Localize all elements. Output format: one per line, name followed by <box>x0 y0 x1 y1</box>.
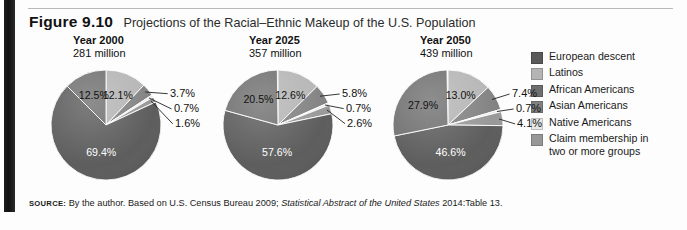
legend-item-native-americans: Native Americans <box>531 116 683 130</box>
figure-container: Figure 9.10 Projections of the Racial–Et… <box>0 0 687 230</box>
pie-slice-label: 57.6% <box>262 146 293 158</box>
panel-header-2050: Year 2050 439 million <box>420 34 473 59</box>
pie-slice-label: 12.6% <box>275 89 306 101</box>
figure-title-row: Figure 9.10 Projections of the Racial–Et… <box>29 13 476 31</box>
legend-item-label-multiline: Claim membership intwo or more groups <box>549 132 649 158</box>
source-note: SOURCE: By the author. Based on U.S. Cen… <box>29 198 503 208</box>
legend-item-label: European descent <box>549 50 635 63</box>
pie-chart-2000: 69.4%12.1%12.5% <box>50 69 162 181</box>
legend-item-asian-americans: Asian Americans <box>531 99 683 113</box>
legend-item-label-line2: two or more groups <box>549 145 640 157</box>
pie-slice-label: 20.5% <box>243 93 274 105</box>
panel-population-label: 357 million <box>249 47 302 60</box>
source-text-2: 2014:Table 13. <box>442 198 502 208</box>
legend-item-label: Native Americans <box>549 116 631 129</box>
figure-number: Figure 9.10 <box>29 13 113 30</box>
pie-callout-leader-line <box>494 106 519 115</box>
title-divider-rule <box>28 8 673 9</box>
panel-year-label: Year 2000 <box>73 34 126 47</box>
pie-svg: 57.6%12.6%20.5% <box>222 69 334 181</box>
legend-swatch-icon <box>531 68 543 80</box>
panel-population-label: 281 million <box>73 47 126 60</box>
pie-shading-overlay <box>51 70 161 180</box>
pie-callout-label: 7.4% <box>512 87 537 99</box>
panel-header-2025: Year 2025 357 million <box>249 34 302 59</box>
legend-item-two-or-more-groups: Claim membership intwo or more groups <box>531 132 683 158</box>
legend-item-label-line1: Claim membership in <box>549 132 649 144</box>
pie-callout-label: 0.7% <box>516 102 541 114</box>
source-keyword: SOURCE: <box>29 199 66 208</box>
panel-year-label: Year 2025 <box>249 34 302 47</box>
pie-shading-overlay <box>223 70 333 180</box>
pie-callout-label: 4.1% <box>517 117 542 129</box>
pie-callout-leader-line <box>496 116 520 127</box>
pie-slice-label: 13.0% <box>446 89 477 101</box>
pie-callout-leader-line <box>317 91 345 99</box>
legend-item-european-descent: European descent <box>531 50 683 64</box>
legend-swatch-icon <box>531 52 543 64</box>
pie-svg: 69.4%12.1%12.5% <box>50 69 162 181</box>
figure-title: Projections of the Racial–Ethnic Makeup … <box>124 16 476 30</box>
pie-callout-label: 5.8% <box>342 87 367 99</box>
panel-year-label: Year 2050 <box>420 34 473 47</box>
pie-callout-label: 2.6% <box>347 117 372 129</box>
pie-slice-label: 27.9% <box>408 99 439 111</box>
legend: European descent Latinos African America… <box>531 50 683 160</box>
pie-slice-label: 46.6% <box>436 146 467 158</box>
legend-item-latinos: Latinos <box>531 66 683 80</box>
pie-slice-label: 12.5% <box>79 89 110 101</box>
legend-swatch-icon <box>531 134 543 146</box>
pie-callout-leader-line <box>489 91 515 103</box>
legend-item-label: African Americans <box>549 83 634 96</box>
pie-callout-label: 1.6% <box>175 117 200 129</box>
left-edge-bar <box>4 0 15 212</box>
legend-item-label: Latinos <box>549 66 583 79</box>
legend-item-label: Asian Americans <box>549 99 628 112</box>
pie-svg: 46.6%13.0%27.9% <box>392 69 504 181</box>
pie-chart-2050: 46.6%13.0%27.9% <box>392 69 504 181</box>
panel-header-2000: Year 2000 281 million <box>73 34 126 59</box>
pie-shading-overlay <box>393 70 503 180</box>
source-text-1: By the author. Based on U.S. Census Bure… <box>69 198 279 208</box>
legend-item-african-americans: African Americans <box>531 83 683 97</box>
source-italic: Statistical Abstract of the United State… <box>281 198 439 208</box>
pie-chart-2025: 57.6%12.6%20.5% <box>222 69 334 181</box>
pie-slice-label: 69.4% <box>86 146 117 158</box>
pie-callout-leader-line <box>148 98 178 127</box>
pie-callout-leader-line <box>324 107 350 127</box>
panel-population-label: 439 million <box>420 47 473 60</box>
